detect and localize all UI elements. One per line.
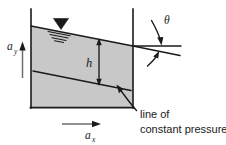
- fluid-region: [31, 26, 133, 107]
- angle-arrow-upper-head: [157, 37, 163, 46]
- accel-horizontal-head: [92, 121, 101, 127]
- angle-arrow-lower-head: [153, 51, 159, 59]
- annotation-line-2: constant pressure: [140, 123, 226, 135]
- accel-vertical-label-sub: y: [13, 47, 18, 56]
- accel-vertical-arrow: [19, 42, 25, 79]
- accel-horizontal-label-sub: x: [91, 135, 96, 144]
- accel-horizontal-arrow: [62, 121, 101, 127]
- accel-horizontal-label: a: [85, 129, 91, 141]
- depth-label: h: [86, 56, 92, 70]
- annotation-line-1: line of: [140, 108, 170, 120]
- angle-marker: [148, 21, 164, 67]
- figure-container: h a y a x θ: [0, 0, 226, 145]
- accel-vertical-label: a: [7, 40, 13, 52]
- free-surface-triangle-icon: [54, 19, 69, 30]
- angle-arrow-lower-shaft: [148, 56, 157, 66]
- diagram-canvas: h a y a x θ: [0, 0, 226, 145]
- angle-label: θ: [164, 14, 170, 26]
- accel-vertical-head: [19, 42, 25, 51]
- angle-arrow-upper-shaft: [152, 21, 161, 40]
